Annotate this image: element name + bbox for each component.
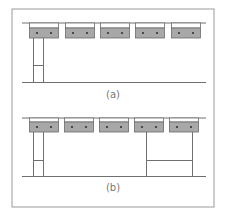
support-frame <box>146 132 193 176</box>
hanging-box <box>170 118 199 132</box>
hanging-box <box>136 23 165 38</box>
hanging-box <box>30 118 59 132</box>
support-frame <box>33 38 44 82</box>
hanging-box <box>101 23 130 38</box>
panel-b: (b) <box>22 118 206 193</box>
bolt-dot <box>192 32 194 34</box>
bolt-dot <box>107 32 109 34</box>
bolt-dot <box>156 32 158 34</box>
bolt-dot <box>106 126 108 128</box>
panel-label: (b) <box>106 182 120 193</box>
hanging-box <box>135 118 164 132</box>
bolt-dot <box>72 32 74 34</box>
figure-frame <box>12 9 214 207</box>
bolt-dot <box>190 126 192 128</box>
panel-label: (a) <box>106 89 120 100</box>
support-frame <box>33 132 44 176</box>
hanging-box <box>30 23 59 38</box>
bolt-dot <box>50 126 52 128</box>
bolt-dot <box>141 126 143 128</box>
hanging-box <box>66 23 95 38</box>
bolt-dot <box>85 126 87 128</box>
bolt-dot <box>178 32 180 34</box>
bolt-dot <box>71 126 73 128</box>
hanging-box <box>172 23 201 38</box>
bolt-dot <box>121 32 123 34</box>
bolt-dot <box>155 126 157 128</box>
hanging-box <box>65 118 94 132</box>
bolt-dot <box>50 32 52 34</box>
hanging-box <box>100 118 129 132</box>
bolt-dot <box>36 126 38 128</box>
bolt-dot <box>36 32 38 34</box>
bolt-dot <box>120 126 122 128</box>
bolt-dot <box>86 32 88 34</box>
bolt-dot <box>142 32 144 34</box>
panel-a: (a) <box>22 23 206 100</box>
bolt-dot <box>176 126 178 128</box>
diagram-canvas: (a)(b) <box>0 0 226 222</box>
